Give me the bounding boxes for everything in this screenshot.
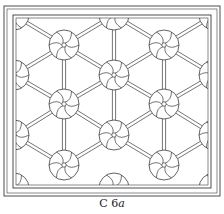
rosette	[149, 89, 179, 119]
rosette	[99, 60, 129, 90]
rosette	[99, 120, 129, 150]
rosette	[149, 150, 179, 180]
caption-label: C 6	[99, 197, 118, 210]
caption-suffix: a	[118, 197, 125, 210]
lattice	[0, 0, 224, 203]
frame	[4, 6, 220, 196]
rosette	[149, 30, 179, 60]
rosette	[49, 150, 79, 180]
rosette	[49, 30, 79, 60]
figure-caption: C 6a	[0, 197, 224, 210]
rosette	[49, 89, 79, 119]
grille-pattern-diagram	[0, 0, 224, 214]
